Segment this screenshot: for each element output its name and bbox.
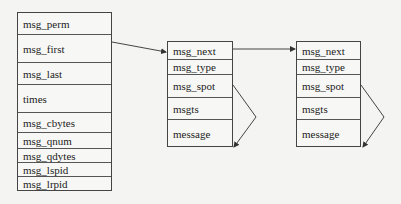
arrow-node1-spot-to-message	[233, 85, 256, 147]
arrow-node2-spot-to-message	[361, 85, 384, 147]
pointer-arrows	[0, 0, 401, 204]
arrow-msg-first-to-node1	[112, 42, 166, 52]
